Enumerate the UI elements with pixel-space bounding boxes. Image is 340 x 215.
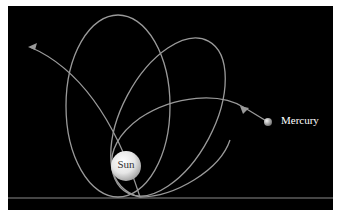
orbit-path-2 <box>87 19 249 214</box>
orbit-path-3b <box>140 140 230 197</box>
mercury-label: Mercury <box>281 114 319 126</box>
sun-label: Sun <box>111 158 141 170</box>
orbit-diagram <box>0 0 340 215</box>
mercury-icon <box>264 118 272 126</box>
